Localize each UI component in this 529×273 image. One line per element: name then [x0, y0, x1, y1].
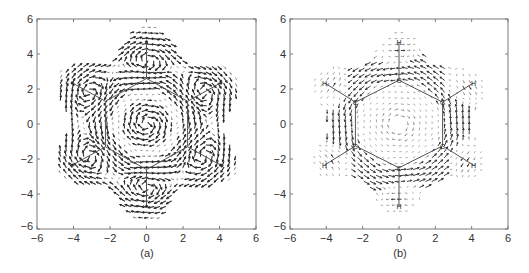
hydrogen-atom-label: H	[322, 162, 327, 169]
y-axis-ticks: −6−4−20246	[273, 13, 508, 232]
hydrogen-atom-marker	[71, 164, 74, 167]
y-tick-label: 4	[27, 48, 33, 60]
x-axis-ticks: −6−4−20246	[284, 19, 511, 244]
x-tick-label: 2	[180, 232, 186, 244]
carbon-atom-label: C	[396, 77, 401, 84]
panel-caption-b: (b)	[380, 247, 420, 259]
c-c-bond	[355, 80, 399, 102]
c-c-bond	[147, 147, 188, 170]
hydrogen-atom-marker	[219, 81, 222, 84]
x-tick-label: 2	[432, 232, 438, 244]
carbon-atom-label: C	[396, 165, 401, 172]
y-tick-label: 6	[27, 13, 33, 25]
y-tick-label: −2	[20, 153, 33, 165]
hydrogen-atom-marker	[145, 205, 148, 208]
x-tick-label: −2	[104, 232, 117, 244]
quiver-plot-b: −6−4−20246−6−4−20246CCCCCCHHHHHH	[264, 0, 529, 273]
c-h-bond	[72, 147, 105, 165]
hydrogen-atom-label: H	[396, 203, 401, 210]
x-tick-label: 4	[469, 232, 475, 244]
y-tick-label: 2	[27, 83, 33, 95]
x-tick-label: 4	[216, 232, 222, 244]
c-c-bond	[399, 146, 443, 168]
hydrogen-atom-marker	[145, 40, 148, 43]
c-c-bond	[105, 79, 146, 102]
x-tick-label: 0	[143, 232, 149, 244]
hydrogen-atom-label: H	[471, 162, 476, 169]
carbon-atom-label: C	[353, 143, 358, 150]
hydrogen-atom-marker	[71, 81, 74, 84]
x-tick-label: 6	[253, 232, 259, 244]
y-tick-label: −6	[20, 220, 33, 232]
y-tick-label: 4	[280, 48, 286, 60]
carbon-atom-label: C	[440, 143, 445, 150]
y-tick-label: −4	[273, 188, 286, 200]
y-tick-label: −6	[273, 220, 286, 232]
c-h-bond	[443, 146, 474, 165]
y-tick-label: 2	[280, 83, 286, 95]
carbon-atom-label: C	[353, 99, 358, 106]
vector-field	[59, 27, 237, 219]
c-h-bond	[443, 83, 474, 102]
hydrogen-atom-marker	[219, 164, 222, 167]
vector-field	[314, 33, 483, 212]
panel-b: −6−4−20246−6−4−20246CCCCCCHHHHHH (b)	[264, 0, 529, 273]
y-tick-label: 6	[280, 13, 286, 25]
carbon-atom-label: C	[440, 99, 445, 106]
x-tick-label: −6	[284, 232, 297, 244]
panel-a: −6−4−20246−6−4−20246 (a)	[0, 0, 265, 273]
quiver-plot-a: −6−4−20246−6−4−20246	[0, 0, 265, 273]
panel-caption-a: (a)	[127, 247, 167, 259]
y-tick-label: −2	[273, 153, 286, 165]
x-tick-label: −4	[67, 232, 80, 244]
y-tick-label: 0	[280, 118, 286, 130]
c-c-bond	[355, 146, 399, 168]
x-tick-label: −4	[320, 232, 333, 244]
hydrogen-atom-label: H	[322, 80, 327, 87]
hydrogen-atom-label: H	[396, 39, 401, 46]
x-tick-label: −2	[356, 232, 369, 244]
x-tick-label: 6	[505, 232, 511, 244]
x-tick-label: 0	[396, 232, 402, 244]
x-tick-label: −6	[31, 232, 44, 244]
hydrogen-atom-label: H	[471, 80, 476, 87]
c-c-bond	[105, 147, 146, 170]
x-axis-ticks: −6−4−20246	[31, 19, 259, 244]
y-tick-label: 0	[27, 118, 33, 130]
y-tick-label: −4	[20, 188, 33, 200]
